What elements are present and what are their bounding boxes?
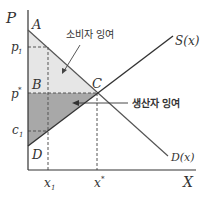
svg-text:x: x bbox=[94, 176, 101, 190]
price-tick-p1: p 1 bbox=[11, 40, 22, 56]
svg-text:*: * bbox=[18, 86, 22, 94]
svg-text:*: * bbox=[101, 175, 105, 183]
price-tick-pstar: p * bbox=[11, 86, 22, 101]
point-c-label: C bbox=[92, 76, 102, 91]
supply-curve-label: S(x) bbox=[175, 34, 200, 48]
surplus-diagram: P X A B C D p 1 p * c 1 x 1 x * S(x) D(x… bbox=[0, 0, 212, 198]
x-axis-label: X bbox=[182, 174, 194, 190]
consumer-surplus-label: 소비자 잉여 bbox=[66, 29, 114, 40]
quantity-tick-x1: x 1 bbox=[44, 176, 55, 192]
demand-curve-label: D(x) bbox=[170, 151, 195, 164]
producer-surplus-label: 생산자 잉여 bbox=[132, 97, 180, 109]
point-a-label: A bbox=[31, 17, 41, 32]
svg-text:1: 1 bbox=[51, 184, 55, 192]
svg-text:1: 1 bbox=[19, 131, 23, 139]
svg-text:c: c bbox=[12, 123, 19, 137]
point-b-label: B bbox=[31, 77, 42, 92]
point-d-label: D bbox=[31, 147, 43, 162]
svg-text:x: x bbox=[44, 176, 51, 190]
consumer-surplus-pointer bbox=[64, 45, 80, 71]
quantity-tick-xstar: x * bbox=[94, 175, 105, 190]
price-tick-c1: c 1 bbox=[12, 123, 23, 139]
svg-text:1: 1 bbox=[18, 48, 22, 56]
y-axis-label: P bbox=[5, 9, 17, 27]
